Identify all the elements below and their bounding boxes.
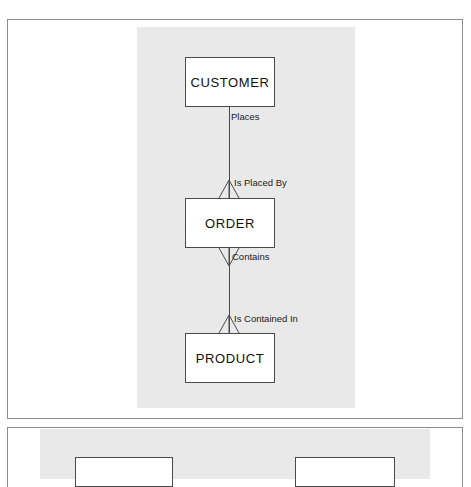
entity-box-product[interactable]: PRODUCT [185,333,275,383]
entity-box-partial-right[interactable] [295,457,395,487]
entity-box-order[interactable]: ORDER [185,198,275,248]
relationship-label-is-contained-in: Is Contained In [234,314,298,324]
entity-label-order: ORDER [205,216,255,231]
entity-label-customer: CUSTOMER [191,75,270,90]
relationship-label-contains: Contains [232,252,270,262]
relationship-label-places: Places [231,112,260,122]
relationship-label-is-placed-by: Is Placed By [234,178,287,188]
entity-label-product: PRODUCT [196,351,264,366]
entity-box-partial-left[interactable] [75,457,173,487]
entity-box-customer[interactable]: CUSTOMER [185,57,275,107]
